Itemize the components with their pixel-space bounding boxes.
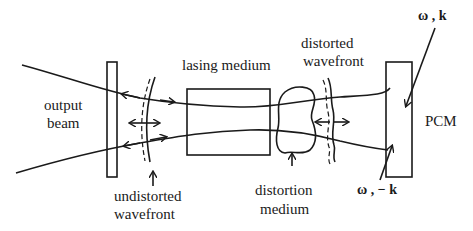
distorted-wavefront-label: wavefront: [303, 54, 364, 69]
incident-wave-arrow: [406, 28, 435, 106]
distorted-wavefront-label: distorted: [301, 36, 354, 51]
undistorted-wavefront-label: undistorted: [114, 189, 182, 204]
output-beam-label: beam: [47, 116, 79, 131]
distortion-medium: [276, 87, 315, 153]
arrow-left-icon: [124, 143, 140, 146]
phase-conjugate-mirror: [386, 62, 412, 177]
output-coupler-mirror: [107, 62, 117, 177]
lasing-medium: [187, 89, 270, 155]
pcm-label: PCM: [425, 114, 457, 129]
conjugate-wave-label: ω , − k: [357, 182, 397, 197]
distortion-medium-label: distortion: [255, 183, 313, 198]
arrow-left-icon: [122, 94, 140, 98]
undistorted-wavefront: [147, 77, 155, 162]
lasing-medium-label: lasing medium: [182, 58, 271, 73]
output-beam-label: output: [44, 98, 82, 113]
distortion-medium-label: medium: [260, 202, 309, 217]
undistorted-wavefront-label: wavefront: [114, 207, 175, 222]
incident-wave-label: ω , k: [418, 8, 447, 23]
